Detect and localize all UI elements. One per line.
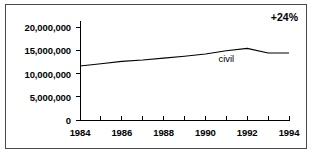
x-axis-label: 1992: [237, 127, 258, 138]
x-axis-label: 1988: [153, 127, 174, 138]
y-axis-label: 20,000,000: [24, 22, 71, 33]
y-axis-label: 0: [66, 115, 71, 126]
growth-annotation: +24%: [271, 11, 298, 23]
y-axis-label: 10,000,000: [24, 68, 71, 79]
x-axis-label: 1994: [279, 127, 300, 138]
series-line-civil: [80, 48, 289, 66]
chart-series: [80, 48, 289, 66]
x-axis-label: 1990: [195, 127, 216, 138]
chart-axes: [76, 21, 289, 121]
x-axis-label: 1986: [111, 127, 132, 138]
y-axis-label: 15,000,000: [24, 45, 71, 56]
y-axis-label: 5,000,000: [30, 91, 71, 102]
chart-frame: 20,000,00015,000,00010,000,0005,000,0000…: [5, 4, 307, 149]
series-label-civil: civil: [218, 53, 234, 64]
x-axis-label: 1984: [70, 127, 91, 138]
